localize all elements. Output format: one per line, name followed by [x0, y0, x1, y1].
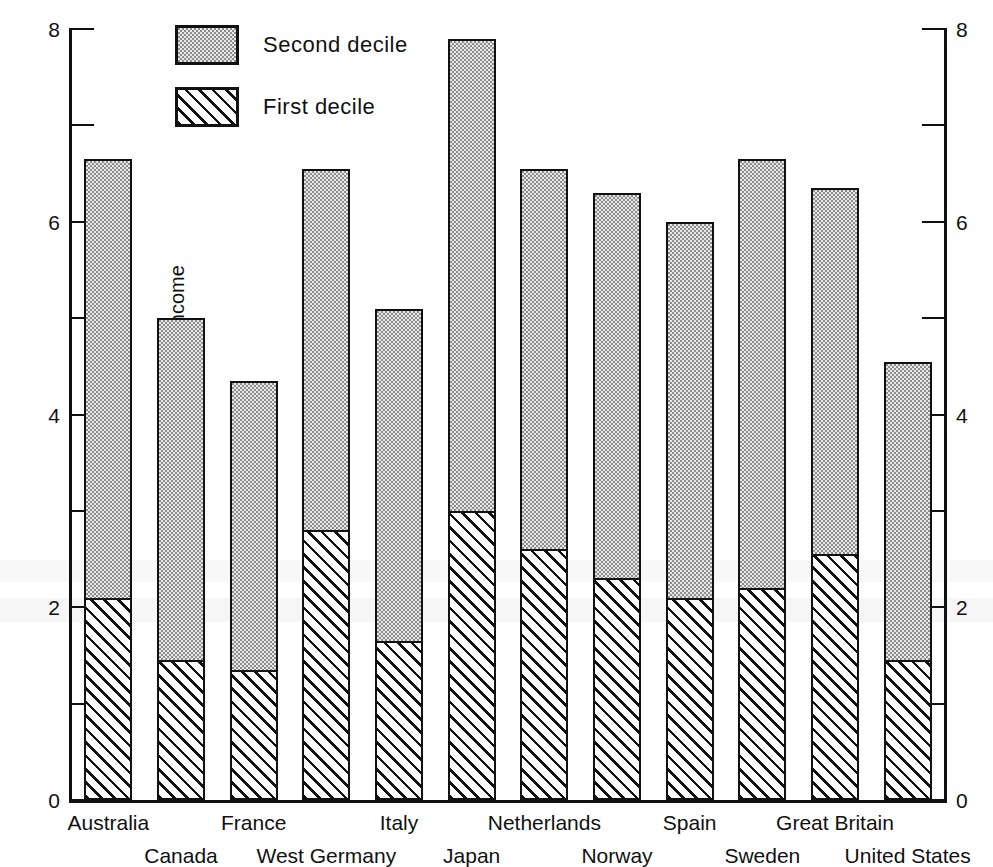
- y-tick-label-right-4: 4: [956, 404, 968, 425]
- x-axis-label-japan: Japan: [443, 845, 500, 866]
- y-tick-right-8: [922, 28, 947, 30]
- bar-japan: [448, 39, 496, 800]
- y-tick-label-left-8: 8: [48, 19, 60, 40]
- bar-segment-first-decile: [157, 660, 205, 800]
- bar-west-germany: [302, 169, 350, 800]
- y-tick-right-6: [922, 221, 947, 223]
- bar-france: [230, 381, 278, 800]
- y-tick-label-left-4: 4: [48, 404, 60, 425]
- bar-segment-first-decile: [448, 511, 496, 800]
- y-tick-label-right-0: 0: [956, 790, 968, 811]
- bar-segment-first-decile: [375, 641, 423, 800]
- bar-segment-second-decile: [230, 381, 278, 673]
- bar-norway: [593, 193, 641, 800]
- bar-canada: [157, 318, 205, 800]
- x-axis-label-italy: Italy: [380, 812, 419, 833]
- bar-segment-first-decile: [884, 660, 932, 800]
- x-axis-spine: [69, 800, 947, 803]
- bar-segment-second-decile: [811, 188, 859, 557]
- bar-segment-second-decile: [666, 222, 714, 600]
- x-axis-label-great-britain: Great Britain: [776, 812, 894, 833]
- y-tick-minor-right-7: [922, 124, 947, 126]
- bar-spain: [666, 222, 714, 800]
- bar-segment-first-decile: [593, 578, 641, 800]
- y-tick-label-left-2: 2: [48, 597, 60, 618]
- bar-segment-second-decile: [375, 309, 423, 644]
- bar-sweden: [738, 159, 786, 800]
- bar-segment-second-decile: [520, 169, 568, 552]
- x-axis-label-west-germany: West Germany: [257, 845, 397, 866]
- bar-segment-first-decile: [666, 598, 714, 800]
- bar-segment-first-decile: [811, 554, 859, 800]
- bar-segment-second-decile: [593, 193, 641, 581]
- bar-segment-second-decile: [84, 159, 132, 600]
- bar-segment-second-decile: [448, 39, 496, 514]
- x-axis-label-france: France: [221, 812, 286, 833]
- y-tick-label-left-6: 6: [48, 211, 60, 232]
- x-axis-label-australia: Australia: [67, 812, 149, 833]
- y-tick-left-8: [69, 28, 94, 30]
- bar-netherlands: [520, 169, 568, 800]
- y-tick-minor-right-5: [922, 317, 947, 319]
- bar-segment-second-decile: [884, 362, 932, 663]
- y-tick-label-right-6: 6: [956, 211, 968, 232]
- bar-segment-first-decile: [230, 670, 278, 800]
- bar-italy: [375, 309, 423, 801]
- bar-segment-first-decile: [738, 588, 786, 800]
- bar-segment-second-decile: [157, 318, 205, 663]
- y-tick-minor-left-7: [69, 124, 94, 126]
- x-axis-label-canada: Canada: [144, 845, 218, 866]
- bar-australia: [84, 159, 132, 800]
- y-tick-label-right-8: 8: [956, 19, 968, 40]
- bar-segment-first-decile: [302, 530, 350, 800]
- y-tick-label-right-2: 2: [956, 597, 968, 618]
- x-axis-label-sweden: Sweden: [724, 845, 800, 866]
- bar-segment-second-decile: [302, 169, 350, 533]
- bar-segment-first-decile: [84, 598, 132, 800]
- x-axis-label-norway: Norway: [581, 845, 652, 866]
- bar-great-britain: [811, 188, 859, 800]
- x-axis-label-netherlands: Netherlands: [488, 812, 601, 833]
- plot-area: 0022446688: [72, 29, 944, 800]
- x-axis-label-spain: Spain: [663, 812, 717, 833]
- x-axis-label-united-states: United States: [845, 845, 971, 866]
- y-tick-label-left-0: 0: [48, 790, 60, 811]
- bar-segment-second-decile: [738, 159, 786, 590]
- bar-segment-first-decile: [520, 549, 568, 800]
- bar-united-states: [884, 362, 932, 801]
